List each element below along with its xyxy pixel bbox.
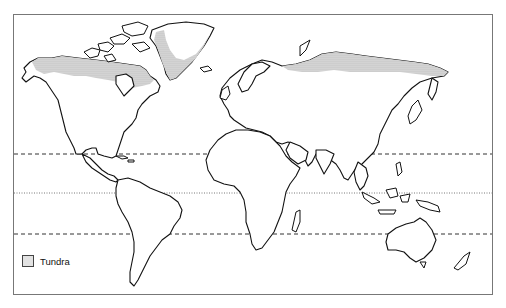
south-america (116, 178, 182, 286)
tasmania (420, 262, 426, 268)
iceland (200, 66, 212, 72)
greenland (150, 22, 214, 80)
new-zealand (454, 252, 470, 270)
legend-label-tundra: Tundra (40, 256, 70, 267)
world-map (0, 0, 506, 308)
north-america (22, 56, 160, 182)
legend: Tundra (22, 255, 70, 267)
oceania (386, 218, 470, 270)
arctic-archipelago (84, 22, 150, 62)
tundra-swatch (22, 255, 34, 267)
africa (206, 130, 300, 250)
